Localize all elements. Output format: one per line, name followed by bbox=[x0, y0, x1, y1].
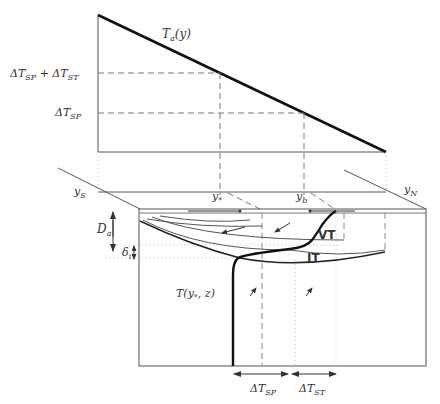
delta-label: δi bbox=[122, 246, 132, 261]
upper-level-label: ΔTSP + ΔTST bbox=[9, 67, 79, 82]
da-label: Da bbox=[96, 222, 112, 238]
dtst-label: ΔTST bbox=[298, 382, 326, 397]
depth-annotations: Da δi bbox=[96, 212, 134, 261]
y-south-label: yS bbox=[73, 185, 86, 200]
profile-label: T(y*, z) bbox=[176, 287, 215, 302]
flow-arrow-ne-2 bbox=[306, 288, 312, 296]
flow-arrow-sw bbox=[275, 223, 290, 232]
dtsp-label: ΔTSP bbox=[249, 382, 277, 397]
it-label: IT bbox=[307, 251, 320, 265]
streamline-3 bbox=[160, 216, 250, 221]
y-b-projection bbox=[311, 193, 336, 210]
vt-label: VT bbox=[318, 228, 336, 242]
flow-arrow-west bbox=[222, 227, 245, 233]
ta-label: Ta(y) bbox=[162, 27, 191, 43]
flow-arrow-ne-1 bbox=[250, 288, 256, 296]
surface-plane: yS yN y* yb bbox=[58, 168, 426, 210]
ocean-schematic-diagram: Ta(y) ΔTSP + ΔTST ΔTSP yS yN y* yb bbox=[0, 0, 440, 404]
ocean-box: VT IT T(y*, z) bbox=[105, 209, 426, 366]
bottom-deltas: ΔTSP ΔTST bbox=[234, 374, 336, 397]
ta-curve bbox=[98, 15, 386, 152]
y-star-projection bbox=[228, 193, 262, 210]
y-north-label: yN bbox=[403, 183, 418, 198]
surface-flow-node-2 bbox=[309, 210, 312, 213]
atmosphere-temperature-panel: Ta(y) ΔTSP + ΔTST ΔTSP bbox=[9, 15, 386, 195]
lower-level-label: ΔTSP bbox=[54, 106, 82, 121]
surface-flow-node-1 bbox=[239, 210, 242, 213]
plane-left-edge bbox=[58, 168, 140, 209]
